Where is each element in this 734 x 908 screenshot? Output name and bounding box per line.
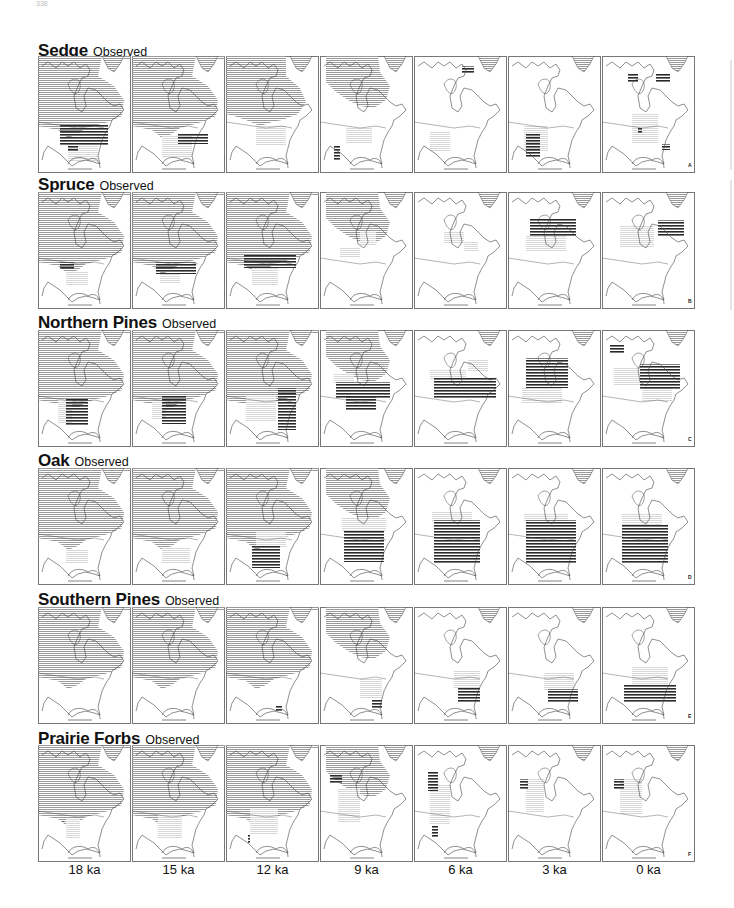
map-panel <box>508 192 601 309</box>
map-panel <box>226 468 319 585</box>
map-panel: C <box>602 330 695 447</box>
map-panel <box>508 745 601 862</box>
map-panel <box>38 607 131 724</box>
map-panel <box>320 56 413 173</box>
observed-label: Observed <box>75 455 129 469</box>
map-panel <box>226 192 319 309</box>
svg-text:B: B <box>688 298 692 304</box>
map-panel <box>132 192 225 309</box>
row-title-oak: OakObserved <box>38 452 129 469</box>
observed-label: Observed <box>162 317 216 331</box>
observed-label: Observed <box>165 594 219 608</box>
map-panel <box>414 330 507 447</box>
map-panel <box>226 330 319 447</box>
map-panel: A <box>602 56 695 173</box>
map-panel <box>320 468 413 585</box>
row-title-southern-pines: Southern PinesObserved <box>38 591 219 608</box>
svg-text:A: A <box>688 162 692 168</box>
map-panel <box>38 56 131 173</box>
map-panel: E <box>602 607 695 724</box>
time-label: 0 ka <box>602 862 695 877</box>
time-label: 9 ka <box>320 862 413 877</box>
map-panel <box>508 607 601 724</box>
map-panel <box>508 330 601 447</box>
page-edge-shadow <box>730 180 732 310</box>
map-panel <box>414 607 507 724</box>
map-panel <box>38 745 131 862</box>
map-panel: F <box>602 745 695 862</box>
time-label: 3 ka <box>508 862 601 877</box>
map-panel <box>508 468 601 585</box>
map-panel <box>226 607 319 724</box>
map-panel <box>226 56 319 173</box>
page-edge-shadow <box>730 60 732 170</box>
map-panel: B <box>602 192 695 309</box>
svg-text:D: D <box>688 574 692 580</box>
map-panel <box>132 56 225 173</box>
map-panel <box>132 468 225 585</box>
map-panel <box>414 468 507 585</box>
map-panel <box>508 56 601 173</box>
page-number: 338 <box>36 0 48 7</box>
observed-label: Observed <box>99 179 153 193</box>
row-title-northern-pines: Northern PinesObserved <box>38 314 216 331</box>
svg-text:C: C <box>688 436 692 442</box>
map-panel: D <box>602 468 695 585</box>
map-panel <box>414 192 507 309</box>
map-panel <box>132 330 225 447</box>
time-label: 18 ka <box>38 862 131 877</box>
time-label: 12 ka <box>226 862 319 877</box>
map-panel <box>320 607 413 724</box>
time-label: 15 ka <box>132 862 225 877</box>
time-label: 6 ka <box>414 862 507 877</box>
map-panel <box>38 330 131 447</box>
map-panel <box>320 192 413 309</box>
map-panel <box>320 745 413 862</box>
map-panel <box>414 56 507 173</box>
map-panel <box>414 745 507 862</box>
map-panel <box>38 192 131 309</box>
row-title-spruce: SpruceObserved <box>38 176 154 193</box>
map-panel <box>38 468 131 585</box>
map-panel <box>320 330 413 447</box>
map-panel <box>132 745 225 862</box>
map-panel <box>226 745 319 862</box>
svg-text:F: F <box>688 851 691 857</box>
map-panel <box>132 607 225 724</box>
